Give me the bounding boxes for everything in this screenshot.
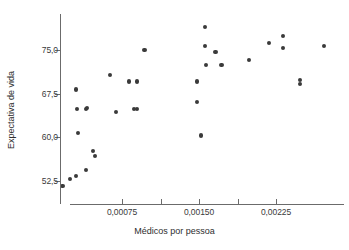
scatter-point (127, 79, 131, 83)
scatter-point (93, 154, 97, 158)
y-axis-tick-label: 52,5 (42, 176, 58, 186)
scatter-point (142, 48, 146, 52)
scatter-point (91, 149, 95, 153)
scatter-point (74, 87, 78, 91)
y-axis-tick-label: 67,5 (42, 89, 58, 99)
scatter-point (195, 100, 199, 104)
y-axis-tick-label: 60,0 (42, 132, 58, 142)
scatter-point (135, 107, 139, 111)
scatter-point (135, 79, 139, 83)
scatter-point (213, 50, 217, 54)
scatter-point (114, 110, 118, 114)
y-axis-line (60, 14, 61, 204)
scatter-point (298, 82, 302, 86)
scatter-point (85, 106, 89, 110)
scatter-point (204, 63, 208, 67)
scatter-point (195, 79, 199, 83)
scatter-point (108, 73, 112, 77)
x-axis-title: Médicos por pessoa (0, 226, 349, 236)
x-axis-tick (122, 199, 123, 205)
scatter-point (199, 133, 203, 137)
x-axis-tick-label: 0,00150 (184, 207, 214, 217)
scatter-point (322, 44, 326, 48)
scatter-point (281, 34, 285, 38)
y-axis-tick-label: 75,0 (42, 45, 58, 55)
plot-area (0, 0, 349, 250)
scatter-point (68, 177, 72, 181)
scatter-point (219, 63, 223, 67)
scatter-point (281, 46, 285, 50)
x-axis-tick (276, 199, 277, 205)
scatter-chart-figure: Expectativa de vida Médicos por pessoa 7… (0, 0, 349, 250)
scatter-point (84, 168, 88, 172)
x-axis-line (70, 204, 344, 205)
x-axis-tick (199, 199, 200, 205)
scatter-point (267, 41, 271, 45)
x-axis-tick-label: 0,00075 (107, 207, 137, 217)
x-axis-tick-label: 0,00225 (261, 207, 291, 217)
x-axis-minor-tick (161, 199, 162, 205)
scatter-point (75, 107, 79, 111)
scatter-point (76, 131, 80, 135)
scatter-point (203, 25, 207, 29)
scatter-point (247, 58, 251, 62)
scatter-point (203, 44, 207, 48)
x-axis-minor-tick (238, 199, 239, 205)
y-axis-title: Expectativa de vida (6, 50, 16, 170)
scatter-point (74, 174, 78, 178)
